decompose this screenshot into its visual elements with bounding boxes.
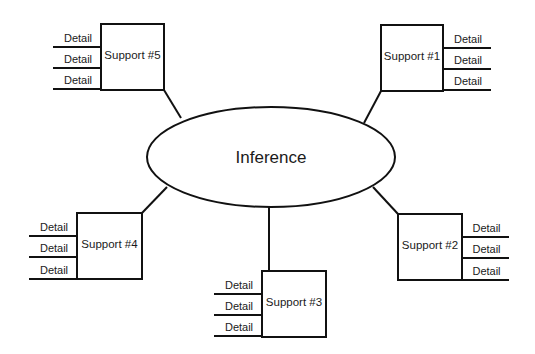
support-label: Support #4 <box>81 238 138 250</box>
connector-support-5 <box>164 90 181 118</box>
support-node-4: DetailDetailDetailSupport #4 <box>29 213 142 279</box>
connector-support-2 <box>373 187 398 214</box>
connector-support-4 <box>142 187 167 213</box>
detail-label: Detail <box>64 32 92 44</box>
support-node-3: DetailDetailDetailSupport #3 <box>214 271 326 337</box>
detail-label: Detail <box>472 265 500 277</box>
detail-label: Detail <box>472 222 500 234</box>
detail-label: Detail <box>472 243 500 255</box>
support-label: Support #1 <box>384 50 440 62</box>
support-label: Support #5 <box>104 49 160 61</box>
connector-support-1 <box>364 91 381 123</box>
inference-label: Inference <box>236 148 307 167</box>
detail-label: Detail <box>454 33 482 45</box>
support-node-2: DetailDetailDetailSupport #2 <box>398 214 509 280</box>
detail-label: Detail <box>40 221 68 233</box>
inference-diagram: Inference DetailDetailDetailSupport #1De… <box>0 0 535 354</box>
detail-label: Detail <box>64 74 92 86</box>
detail-label: Detail <box>40 242 68 254</box>
detail-label: Detail <box>225 279 253 291</box>
support-node-1: DetailDetailDetailSupport #1 <box>381 25 491 91</box>
detail-label: Detail <box>225 321 253 333</box>
detail-label: Detail <box>454 54 482 66</box>
inference-node: Inference <box>147 107 395 207</box>
detail-label: Detail <box>40 264 68 276</box>
detail-label: Detail <box>225 300 253 312</box>
detail-label: Detail <box>64 53 92 65</box>
support-label: Support #2 <box>402 239 458 251</box>
support-node-5: DetailDetailDetailSupport #5 <box>53 24 164 90</box>
support-label: Support #3 <box>266 296 322 308</box>
detail-label: Detail <box>454 75 482 87</box>
